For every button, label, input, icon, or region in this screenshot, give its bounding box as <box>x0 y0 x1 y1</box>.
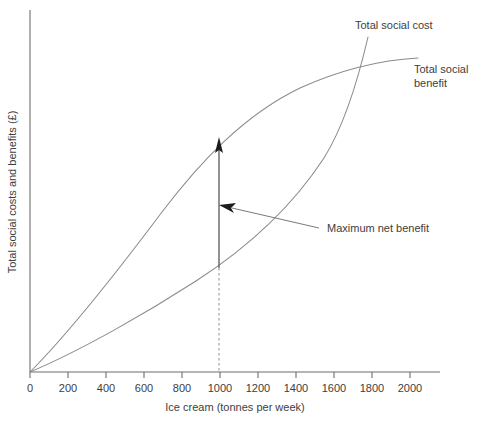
x-tick-label-2000: 2000 <box>398 382 422 394</box>
max-net-benefit-gap-arrow <box>215 137 223 268</box>
x-axis-tick-labels: 0 200 400 600 800 1000 1200 1400 1600 18… <box>27 382 422 394</box>
curve-total-social-benefit <box>30 58 418 372</box>
chart-figure: 0 200 400 600 800 1000 1200 1400 1600 18… <box>0 0 487 422</box>
y-axis-title: Total social costs and benefits (£) <box>6 111 18 274</box>
x-tick-label-1000: 1000 <box>208 382 232 394</box>
x-axis-ticks <box>30 372 410 378</box>
x-axis-title: Ice cream (tonnes per week) <box>165 401 304 413</box>
x-tick-label-200: 200 <box>59 382 77 394</box>
x-tick-label-1800: 1800 <box>360 382 384 394</box>
x-tick-label-800: 800 <box>173 382 191 394</box>
curve-total-social-cost <box>30 37 368 372</box>
series-label-total-social-benefit-line2: benefit <box>414 77 447 89</box>
x-tick-label-1400: 1400 <box>284 382 308 394</box>
leader-line-segment <box>232 208 319 228</box>
x-tick-label-600: 600 <box>135 382 153 394</box>
annotation-label-maximum-net-benefit: Maximum net benefit <box>327 222 429 234</box>
x-tick-label-1600: 1600 <box>322 382 346 394</box>
x-tick-label-0: 0 <box>27 382 33 394</box>
chart-plot-area: 0 200 400 600 800 1000 1200 1400 1600 18… <box>0 0 487 422</box>
series-label-total-social-cost: Total social cost <box>355 19 433 31</box>
axis-group <box>30 10 440 372</box>
x-tick-label-400: 400 <box>97 382 115 394</box>
x-tick-label-1200: 1200 <box>246 382 270 394</box>
series-label-total-social-benefit-line1: Total social <box>414 63 468 75</box>
